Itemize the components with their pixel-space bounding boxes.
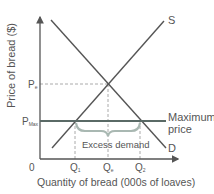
demand-label: D <box>168 142 176 154</box>
y-axis-label: Price of bread ($) <box>5 23 17 108</box>
excess-demand-label: Excess demand <box>82 139 150 150</box>
x-axis-label: Quantity of bread (000s of loaves) <box>37 176 195 188</box>
q1-label: Q1 <box>70 162 81 173</box>
max-price-label-2: price <box>168 123 192 135</box>
max-price-label-1: Maximum <box>168 111 214 123</box>
qe-label: Qe <box>103 162 114 173</box>
pmax-label: PMax <box>22 116 39 127</box>
supply-label: S <box>168 14 175 26</box>
origin-label: 0 <box>29 162 35 173</box>
pe-label: Pe <box>28 79 38 90</box>
q2-label: Q2 <box>135 162 146 173</box>
price-ceiling-diagram: Price of bread ($) S D Pe PMax Maximum p… <box>0 0 214 194</box>
